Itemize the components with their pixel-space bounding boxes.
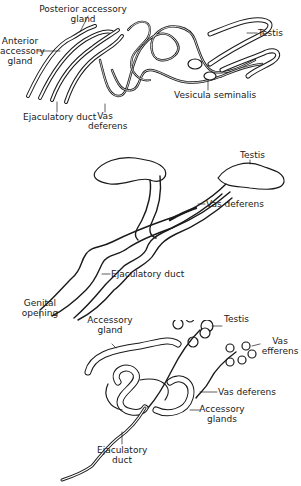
label-accessory-glands: Accessory glands bbox=[198, 404, 246, 424]
label-vesicula-seminalis: Vesicula seminalis bbox=[174, 90, 256, 100]
label-anterior-accessory-gland: Anterior accessory gland bbox=[0, 36, 40, 66]
label-vas-deferens: Vas deferens bbox=[88, 111, 122, 131]
label-line-2: accessory bbox=[0, 46, 40, 56]
label-line-2: efferens bbox=[260, 346, 300, 356]
label-line-2: glands bbox=[198, 414, 246, 424]
figure-b: Testis Vas deferens Ejaculatory duct Gen… bbox=[0, 150, 301, 330]
label-line-1: Posterior accessory bbox=[38, 4, 128, 14]
label-line-2: deferens bbox=[88, 121, 122, 131]
label-genital-opening: Genital opening bbox=[20, 298, 60, 318]
label-line-2: gland bbox=[85, 325, 135, 335]
label-ejaculatory-duct: Ejaculatory duct bbox=[111, 269, 184, 279]
label-line-1: Anterior bbox=[0, 36, 40, 46]
label-vas-deferens: Vas deferens bbox=[206, 199, 264, 209]
label-vas-deferens: Vas deferens bbox=[218, 387, 276, 397]
figure-c-drawing bbox=[0, 320, 301, 486]
figure-a: Posterior accessory gland Anterior acces… bbox=[0, 0, 301, 150]
label-testis: Testis bbox=[240, 150, 265, 160]
label-vas-efferens: Vas efferens bbox=[260, 336, 300, 356]
label-line-2: gland bbox=[38, 14, 128, 24]
figure-c: Accessory gland Testis Vas efferens Vas … bbox=[0, 320, 301, 486]
label-line-1: Accessory bbox=[198, 404, 246, 414]
label-line-1: Ejaculatory bbox=[97, 445, 147, 455]
label-line-2: duct bbox=[97, 455, 147, 465]
label-line-1: Vas bbox=[88, 111, 122, 121]
label-line-1: Genital bbox=[20, 298, 60, 308]
label-ejaculatory-duct: Ejaculatory duct bbox=[97, 445, 147, 465]
label-accessory-gland: Accessory gland bbox=[85, 315, 135, 335]
label-line-1: Vas bbox=[260, 336, 300, 346]
label-line-2: opening bbox=[20, 308, 60, 318]
label-posterior-accessory-gland: Posterior accessory gland bbox=[38, 4, 128, 24]
label-testis: Testis bbox=[258, 28, 283, 38]
label-line-3: gland bbox=[0, 56, 40, 66]
label-testis: Testis bbox=[224, 314, 249, 324]
label-line-1: Accessory bbox=[85, 315, 135, 325]
label-ejaculatory-duct: Ejaculatory duct bbox=[23, 112, 96, 122]
